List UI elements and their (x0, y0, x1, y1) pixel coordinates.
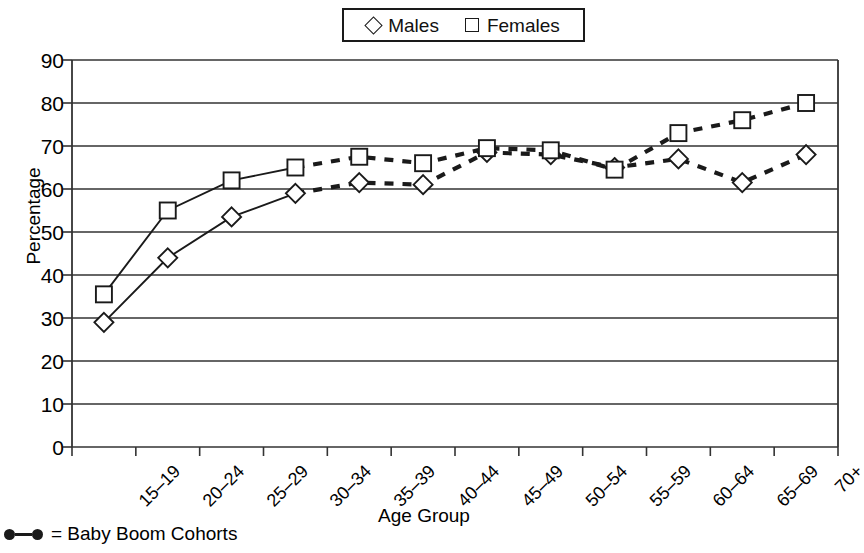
data-point-marker (607, 162, 623, 178)
footnote-text: = Baby Boom Cohorts (51, 523, 237, 545)
data-point-marker (543, 142, 559, 158)
data-point-marker (669, 149, 688, 168)
data-point-marker (286, 184, 305, 203)
data-point-marker (798, 95, 814, 111)
data-point-marker (797, 145, 816, 164)
data-point-marker (287, 160, 303, 176)
data-point-marker (222, 207, 241, 226)
data-point-marker (415, 155, 431, 171)
data-point-marker (479, 140, 495, 156)
data-point-marker (96, 286, 112, 302)
data-point-marker (224, 172, 240, 188)
data-point-marker (160, 203, 176, 219)
data-point-marker (414, 175, 433, 194)
data-point-marker (734, 112, 750, 128)
data-point-marker (351, 149, 367, 165)
data-point-marker (670, 125, 686, 141)
baby-boom-symbol-icon (4, 529, 43, 540)
footnote: = Baby Boom Cohorts (4, 523, 237, 545)
